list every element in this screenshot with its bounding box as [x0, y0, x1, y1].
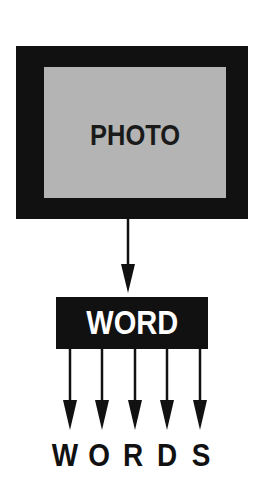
word-label: WORD — [86, 304, 178, 342]
arrow-word-to-letter-1 — [63, 349, 77, 430]
letter-s: S — [188, 438, 215, 474]
letter-o: O — [86, 438, 113, 474]
words-output: W O R D S — [50, 438, 216, 474]
arrow-photo-to-word — [121, 219, 135, 293]
arrow-word-to-letter-2 — [95, 349, 109, 430]
arrow-word-to-letter-3 — [128, 349, 142, 430]
word-box: WORD — [56, 297, 208, 349]
arrow-word-to-letter-4 — [160, 349, 174, 430]
arrow-word-to-letter-5 — [193, 349, 207, 430]
letter-w: W — [52, 438, 79, 474]
letter-d: D — [154, 438, 181, 474]
arrows — [0, 0, 264, 495]
letter-r: R — [120, 438, 147, 474]
